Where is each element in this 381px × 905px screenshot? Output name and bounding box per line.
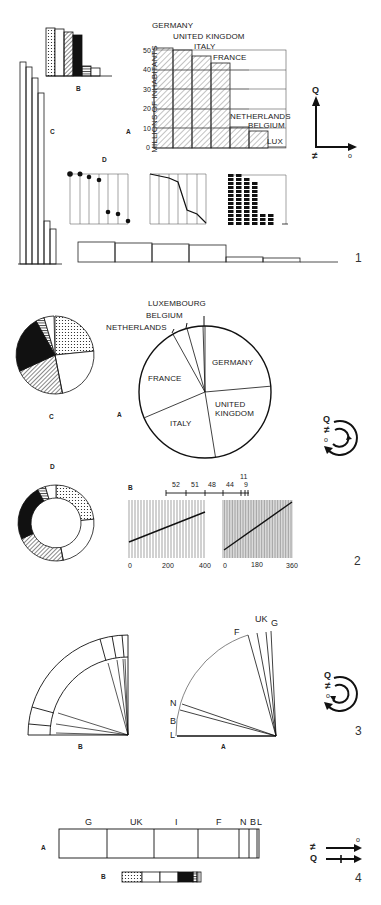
ytick-10: 10 bbox=[143, 125, 151, 132]
panel2-scale bbox=[165, 489, 251, 497]
panel2-label-b: B bbox=[128, 485, 133, 492]
ytick-20: 20 bbox=[143, 105, 151, 112]
legend-neq-icon: ≠ bbox=[310, 842, 316, 852]
legend-neq-icon: ≠ bbox=[324, 425, 330, 435]
panel1-chart-d-line bbox=[148, 170, 210, 226]
panel2-chart-b-1 bbox=[128, 500, 208, 560]
seg-label-l: L bbox=[257, 818, 262, 827]
legend-q-icon: Q bbox=[324, 671, 331, 680]
legend-o-icon: o bbox=[356, 836, 360, 843]
legend-q-icon: Q bbox=[310, 854, 317, 863]
scale-tick-51: 51 bbox=[191, 481, 199, 488]
pie-label-france: FRANCE bbox=[148, 375, 182, 383]
panel1-chart-c bbox=[18, 60, 64, 266]
panel1-label-b: B bbox=[76, 86, 81, 93]
seg-label-n: N bbox=[240, 818, 247, 827]
scale-tick-9: 9 bbox=[244, 481, 248, 488]
panel1-legend bbox=[310, 88, 360, 158]
fan-label-l: L bbox=[170, 731, 175, 740]
panel3-chart-a bbox=[174, 628, 280, 738]
pie-label-united: UNITED bbox=[215, 401, 245, 409]
panel4-legend bbox=[318, 842, 364, 866]
seg-label-g: G bbox=[85, 818, 92, 827]
legend-q-icon: Q bbox=[323, 415, 330, 424]
panel4-chart-b bbox=[121, 871, 203, 883]
panel1-chart-d-dots bbox=[66, 170, 132, 226]
panel-number-1: 1 bbox=[355, 252, 362, 264]
pie-label-italy: ITALY bbox=[170, 420, 192, 428]
seg-label-uk: UK bbox=[130, 818, 143, 827]
scale-tick-11: 11 bbox=[240, 473, 247, 480]
pie-label-germany: GERMANY bbox=[212, 359, 253, 367]
panel-number-4: 4 bbox=[355, 872, 362, 884]
panel4-label-a: A bbox=[41, 845, 46, 852]
seg-label-f: F bbox=[216, 818, 222, 827]
axis1-tick-400: 400 bbox=[199, 562, 211, 569]
scale-tick-44: 44 bbox=[226, 481, 234, 488]
pie-label-kingdom: KINGDOM bbox=[215, 410, 254, 418]
axis2-tick-0: 0 bbox=[223, 562, 227, 569]
panel2-chart-b-2 bbox=[222, 500, 298, 560]
pie-label-belgium: BELGIUM bbox=[146, 312, 183, 320]
seg-label-i: I bbox=[175, 818, 178, 827]
panel-number-2: 2 bbox=[354, 555, 361, 567]
axis1-tick-0: 0 bbox=[128, 562, 132, 569]
panel1-label-d: D bbox=[102, 157, 107, 164]
legend-neq-icon: ≠ bbox=[325, 681, 331, 691]
panel2-label-c: C bbox=[49, 414, 54, 421]
panel1-chart-a bbox=[152, 48, 288, 152]
axis2-tick-360: 360 bbox=[286, 562, 298, 569]
ytick-50: 50 bbox=[143, 47, 151, 54]
panel3-label-b: B bbox=[78, 744, 83, 751]
panel1-chart-d-pictogram bbox=[226, 170, 292, 226]
fan-label-n: N bbox=[170, 699, 177, 708]
panel1-chart-bottom bbox=[76, 240, 338, 264]
panel3-chart-b bbox=[26, 629, 130, 737]
legend-o-icon: o bbox=[348, 152, 352, 159]
bar-label-germany: GERMANY bbox=[152, 22, 193, 30]
panel2-chart-d bbox=[16, 483, 96, 563]
seg-label-b: B bbox=[250, 818, 256, 827]
panel3-label-a: A bbox=[221, 744, 226, 751]
scale-tick-52: 52 bbox=[172, 481, 180, 488]
panel1-label-a: A bbox=[126, 129, 131, 136]
panel2-chart-a bbox=[137, 324, 273, 460]
fan-label-uk: UK bbox=[255, 615, 268, 624]
axis1-tick-200: 200 bbox=[162, 562, 174, 569]
legend-q-icon: Q bbox=[312, 86, 319, 95]
pie-label-luxembourg: LUXEMBOURG bbox=[148, 300, 206, 308]
panel2-label-d: D bbox=[50, 464, 55, 471]
fan-label-f: F bbox=[234, 628, 240, 637]
legend-o-icon: o bbox=[324, 436, 328, 443]
ytick-40: 40 bbox=[143, 66, 151, 73]
fan-label-b: B bbox=[170, 717, 176, 726]
axis2-tick-180: 180 bbox=[251, 561, 263, 568]
panel4-chart-a bbox=[58, 828, 262, 860]
panel-number-3: 3 bbox=[355, 725, 362, 737]
ytick-0: 0 bbox=[146, 144, 150, 151]
legend-o-icon: o bbox=[326, 692, 330, 699]
panel2-chart-c bbox=[14, 314, 96, 396]
panel2-label-a: A bbox=[117, 412, 122, 419]
scale-tick-48: 48 bbox=[208, 481, 216, 488]
ytick-30: 30 bbox=[143, 86, 151, 93]
panel4-label-b: B bbox=[101, 874, 106, 881]
bar-label-uk: UNITED KINGDOM bbox=[173, 33, 245, 41]
fan-label-g: G bbox=[271, 619, 278, 628]
legend-neq-icon: ≠ bbox=[312, 151, 318, 161]
panel1-label-c: C bbox=[50, 129, 55, 136]
